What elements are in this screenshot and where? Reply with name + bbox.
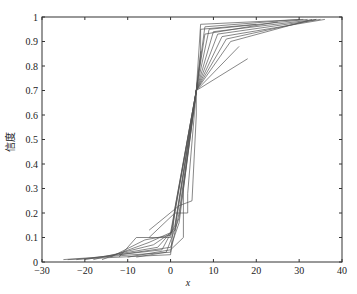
x-axis-ticks: −30−20−10010203040 [34, 17, 347, 276]
x-tick-label: 20 [251, 265, 261, 276]
series-line-curve-12 [136, 24, 256, 257]
x-tick-label: −10 [120, 265, 136, 276]
x-tick-label: 0 [168, 265, 173, 276]
y-tick-label: 0.1 [26, 232, 39, 243]
x-tick-label: 40 [337, 265, 347, 276]
series-line-curve-5 [102, 19, 325, 259]
series-line-curve-8 [68, 19, 304, 259]
x-tick-label: 30 [294, 265, 304, 276]
series-line-curve-7 [119, 19, 312, 257]
series-line-curve-9 [128, 46, 239, 257]
series-line-curve-4 [93, 19, 320, 259]
y-tick-label: 0.6 [26, 110, 39, 121]
chart: −30−20−10010203040 00.10.20.30.40.50.60.… [0, 0, 357, 294]
x-tick-label: 10 [208, 265, 218, 276]
y-axis-label: 信度 [4, 132, 16, 152]
y-tick-label: 0.3 [26, 183, 39, 194]
x-axis-label: x [185, 277, 191, 288]
x-tick-label: −20 [77, 265, 93, 276]
y-tick-label: 0.7 [26, 85, 39, 96]
y-tick-label: 0.9 [26, 36, 39, 47]
y-tick-label: 1 [33, 12, 38, 23]
series-line-curve-11 [149, 51, 201, 230]
series-line-curve-1 [63, 19, 299, 259]
series-lines [63, 19, 325, 259]
y-tick-label: 0.8 [26, 61, 39, 72]
y-tick-label: 0.5 [26, 134, 39, 145]
y-tick-label: 0.4 [26, 159, 39, 170]
y-tick-label: 0 [33, 257, 38, 268]
y-tick-label: 0.2 [26, 208, 39, 219]
